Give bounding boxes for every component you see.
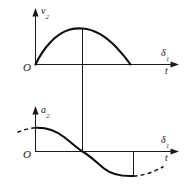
- bottom-chart-dashed-right-extension: [134, 167, 164, 177]
- top-chart-y-axis-label: v2: [41, 6, 49, 19]
- bottom-chart-x-axis-delta-label: δ1: [161, 135, 169, 148]
- top-chart-x-axis-arrow-icon: [171, 61, 180, 67]
- top-chart-x-axis-delta-text: δ: [161, 47, 166, 58]
- bottom-chart-dashed-left-extension: [18, 128, 36, 133]
- bottom-chart-x-axis-delta-subscript: 1: [166, 142, 169, 149]
- top-chart-origin-label: O: [23, 62, 31, 73]
- top-chart-x-axis-delta-label: δ1: [161, 48, 169, 61]
- bottom-chart-y-axis-label-subscript: 2: [46, 112, 49, 119]
- top-chart-x-axis-time-label: t: [165, 66, 168, 76]
- bottom-chart-x-axis-time-label: t: [165, 153, 168, 163]
- top-chart-y-axis-label-subscript: 2: [46, 13, 49, 20]
- bottom-chart-x-axis-arrow-icon: [171, 148, 180, 154]
- diagram-canvas: [0, 0, 189, 193]
- bottom-chart-origin-label: O: [23, 149, 31, 160]
- top-chart-y-axis-label-text: v: [41, 5, 45, 16]
- bottom-chart-x-axis-delta-text: δ: [161, 134, 166, 145]
- top-chart-y-axis-arrow-icon: [32, 8, 38, 17]
- bottom-chart-y-axis-arrow-icon: [32, 106, 38, 115]
- bottom-chart-y-axis-label: a2: [41, 105, 49, 118]
- top-chart-x-axis-delta-subscript: 1: [166, 55, 169, 62]
- top-chart-group: [32, 8, 179, 68]
- velocity-acceleration-diagram: v2 O δ1 t a2 O δ1 t: [0, 0, 189, 193]
